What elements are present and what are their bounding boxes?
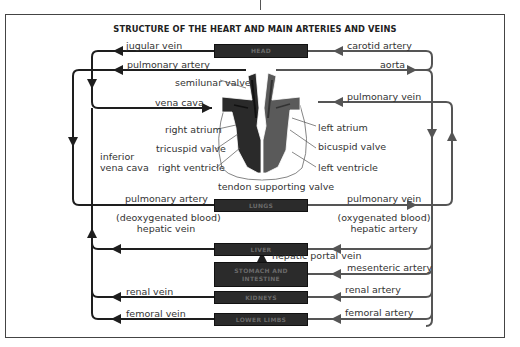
label-pulmonary-artery-lungs: pulmonary artery [125, 193, 208, 204]
label-jugular-vein: jugular vein [126, 40, 182, 51]
label-inferior-vena-cava-2: vena cava [100, 162, 149, 173]
label-mesenteric-artery: mesenteric artery [347, 262, 432, 273]
label-renal-artery: renal artery [345, 284, 401, 295]
label-femoral-vein: femoral vein [126, 308, 186, 319]
label-right-atrium: right atrium [165, 124, 222, 135]
label-bicuspid-valve: bicuspid valve [318, 141, 386, 152]
label-right-ventricle: right ventricle [158, 162, 225, 173]
label-inferior-vena-cava-1: inferior [100, 151, 134, 162]
label-tendon-supporting-valve: tendon supporting valve [218, 181, 334, 192]
label-pulmonary-vein-top: pulmonary vein [347, 91, 421, 102]
label-tricuspid-valve: tricuspid valve [156, 143, 226, 154]
label-semilunar-valve: semilunar valve [175, 77, 251, 88]
label-aorta: aorta [380, 59, 405, 70]
label-left-atrium: left atrium [318, 122, 368, 133]
label-oxygenated-blood: (oxygenated blood) [336, 212, 432, 223]
organ-stomach-intestine: STOMACH AND INTESTINE [214, 262, 308, 287]
organ-head: HEAD [214, 44, 308, 58]
label-vena-cava: vena cava [155, 97, 204, 108]
heart-illustration [219, 73, 307, 180]
organ-lungs: LUNGS [214, 199, 308, 212]
label-renal-vein: renal vein [126, 286, 173, 297]
label-deoxygenated-blood: (deoxygenated blood) [116, 212, 216, 223]
label-femoral-artery: femoral artery [345, 307, 413, 318]
label-hepatic-artery: hepatic artery [336, 223, 432, 234]
label-hepatic-vein: hepatic vein [116, 223, 216, 234]
label-left-ventricle: left ventricle [318, 162, 378, 173]
organ-kidneys: KIDNEYS [214, 291, 308, 304]
label-carotid-artery: carotid artery [347, 40, 412, 51]
label-pulmonary-vein-lungs: pulmonary vein [347, 193, 421, 204]
organ-lower-limbs: LOWER LIMBS [214, 313, 308, 326]
label-hepatic-portal-vein: hepatic portal vein [272, 250, 361, 261]
label-pulmonary-artery-top: pulmonary artery [127, 59, 210, 70]
